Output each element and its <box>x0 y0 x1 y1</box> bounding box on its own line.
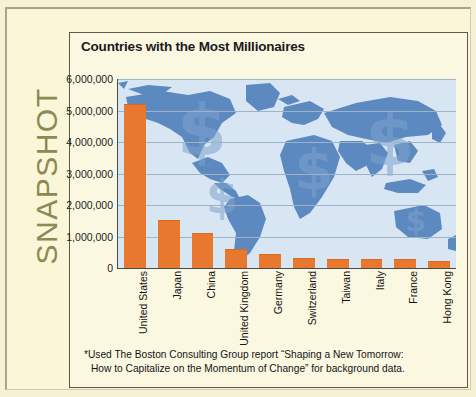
x-axis-tick-label: Switzerland <box>307 271 318 357</box>
svg-text:$: $ <box>177 88 227 172</box>
bar <box>361 259 383 268</box>
y-axis-tick-label: 4,000,000 <box>66 136 113 148</box>
gridline <box>118 205 456 206</box>
x-axis-tick-label: Hong Kong <box>442 271 453 357</box>
y-axis-labels: 6,000,0005,000,0004,000,0003,000,0002,00… <box>70 79 113 269</box>
footnote: *Used The Boston Consulting Group report… <box>84 348 457 375</box>
bar <box>158 220 180 268</box>
y-axis-tick-label: 6,000,000 <box>66 73 113 85</box>
bar <box>394 259 416 268</box>
y-axis-tick-label: 2,000,000 <box>66 199 113 211</box>
bar <box>225 249 247 268</box>
footnote-line-1: *Used The Boston Consulting Group report… <box>84 349 404 360</box>
x-axis-tick-label: Japan <box>172 271 183 357</box>
bar <box>259 254 281 268</box>
x-axis-tick-label: Taiwan <box>341 271 352 357</box>
bar <box>327 259 349 268</box>
gridline <box>118 142 456 143</box>
x-axis-tick-label: United Kingdom <box>239 271 250 357</box>
y-axis-tick-label: 1,000,000 <box>66 231 113 243</box>
svg-text:$: $ <box>406 203 427 238</box>
snapshot-label: SNAPSHOT <box>30 61 64 291</box>
svg-text:$: $ <box>295 137 334 202</box>
x-axis-tick-label: China <box>206 271 217 357</box>
bar <box>124 104 146 268</box>
bar <box>192 233 214 268</box>
x-axis-tick-label: France <box>408 271 419 357</box>
x-axis-labels: United StatesJapanChinaUnited KingdomGer… <box>117 271 455 357</box>
gridline <box>118 174 456 175</box>
x-axis-tick-label: Italy <box>375 271 386 357</box>
gridline <box>118 111 456 112</box>
snapshot-graphic: SNAPSHOT Countries with the Most Million… <box>0 0 476 397</box>
bar <box>293 258 315 268</box>
y-axis-tick-label: 0 <box>107 262 113 274</box>
x-axis-tick-label: United States <box>138 271 149 357</box>
svg-text:$: $ <box>206 170 238 224</box>
plot-area: $ $ $ $ $ <box>117 79 456 269</box>
y-axis-tick-label: 5,000,000 <box>66 105 113 117</box>
y-axis-tick-label: 3,000,000 <box>66 168 113 180</box>
footnote-line-2: How to Capitalize on the Momentum of Cha… <box>84 362 457 376</box>
chart-panel: Countries with the Most Millionaires 6,0… <box>69 32 468 388</box>
outer-frame: SNAPSHOT Countries with the Most Million… <box>5 7 471 390</box>
x-axis-tick-label: Germany <box>273 271 284 357</box>
bar <box>428 261 450 268</box>
gridline <box>118 79 456 80</box>
page-title: Countries with the Most Millionaires <box>81 39 305 54</box>
